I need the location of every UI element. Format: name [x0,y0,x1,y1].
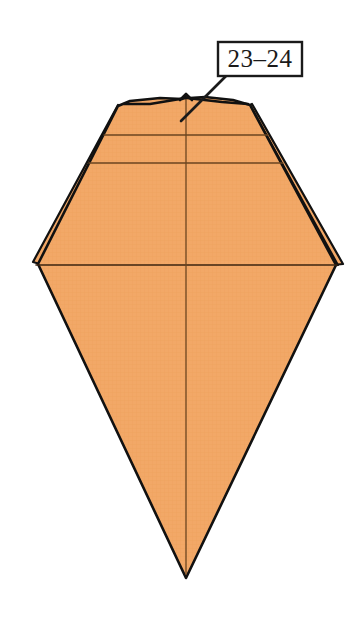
callout-label[interactable]: 23–24 [218,42,302,76]
callout-step-range: 23–24 [228,45,293,72]
origami-figure: 23–24 [0,0,363,621]
diagram-page: 23–24 [0,0,363,621]
paper-body [38,95,336,578]
